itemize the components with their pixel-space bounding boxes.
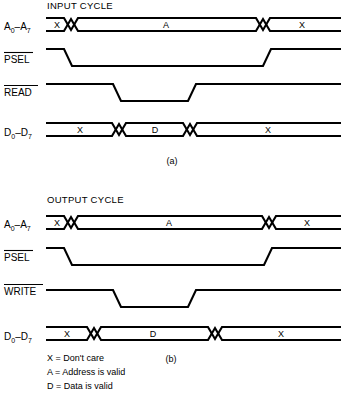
signal-row-psel-input: PSEL	[4, 49, 341, 66]
bus-segment-value: X	[278, 329, 284, 339]
signal-label-d0-d7: D0–D7	[4, 127, 32, 140]
bus-segment-value: X	[304, 218, 310, 228]
legend-item: D = Data is valid	[47, 381, 113, 391]
bus-segment-value: X	[54, 218, 60, 228]
panel-a-title: INPUT CYCLE	[47, 0, 113, 11]
bus-segment-value: D	[150, 329, 157, 339]
signal-row-a0-a7-input: A0–A7 X A X	[4, 18, 341, 34]
signal-label-psel: PSEL	[4, 54, 30, 65]
signal-row-write-output: WRITE	[4, 285, 341, 308]
timing-diagram-canvas: INPUT CYCLE A0–A7 X A X PSEL READ D0–D7	[0, 0, 343, 395]
level-waveform-read-input	[46, 84, 341, 101]
bus-waveform-d0-d7-input-lower	[46, 124, 341, 136]
signal-row-read-input: READ	[4, 84, 341, 101]
level-waveform-psel-input	[46, 49, 341, 66]
legend-item: X = Don't care	[47, 353, 104, 363]
signal-label-psel: PSEL	[4, 252, 30, 263]
bus-segment-value: D	[152, 125, 159, 135]
panel-b-title: OUTPUT CYCLE	[47, 194, 124, 205]
bus-waveform-a0-a7-input	[46, 18, 341, 30]
bus-segment-value: X	[299, 20, 305, 30]
bus-waveform-a0-a7-input-lower	[46, 19, 341, 31]
bus-segment-value: X	[77, 125, 83, 135]
level-waveform-write-output	[46, 290, 341, 307]
panel-b-caption: (b)	[166, 354, 177, 364]
signal-label-a0-a7: A0–A7	[4, 219, 31, 232]
bus-waveform-a0-a7-output	[46, 216, 341, 228]
timing-diagram-figure: INPUT CYCLE A0–A7 X A X PSEL READ D0–D7	[0, 0, 343, 395]
signal-label-a0-a7: A0–A7	[4, 21, 31, 34]
signal-label-write: WRITE	[4, 286, 37, 297]
panel-input-cycle: INPUT CYCLE A0–A7 X A X PSEL READ D0–D7	[4, 0, 341, 166]
signal-label-d0-d7: D0–D7	[4, 331, 32, 344]
signal-row-d0-d7-output: D0–D7 X D X	[4, 327, 341, 344]
bus-segment-value: X	[64, 329, 70, 339]
signal-label-read: READ	[4, 87, 32, 98]
signal-row-d0-d7-input: D0–D7 X D X	[4, 123, 341, 140]
legend: X = Don't care A = Address is valid D = …	[47, 353, 125, 391]
level-waveform-psel-output	[46, 248, 341, 265]
bus-segment-value: X	[265, 125, 271, 135]
bus-segment-value: A	[166, 218, 172, 228]
bus-waveform-d0-d7-output-lower	[46, 328, 341, 340]
bus-waveform-a0-a7-output-lower	[46, 217, 341, 229]
bus-segment-value: X	[54, 20, 60, 30]
panel-output-cycle: OUTPUT CYCLE A0–A7 X A X PSEL WRITE D0–D…	[4, 194, 341, 364]
legend-item: A = Address is valid	[47, 367, 125, 377]
signal-row-psel-output: PSEL	[4, 248, 341, 265]
panel-a-caption: (a)	[167, 156, 178, 166]
bus-segment-value: A	[163, 20, 169, 30]
signal-row-a0-a7-output: A0–A7 X A X	[4, 216, 341, 232]
